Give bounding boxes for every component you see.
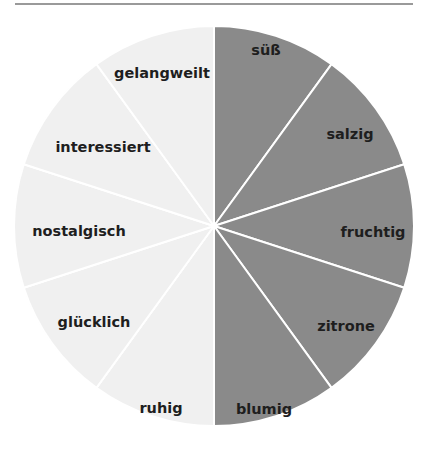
slice-label: salzig — [326, 126, 373, 142]
slice-label: ruhig — [139, 400, 182, 416]
slice-label: zitrone — [317, 318, 375, 334]
slice-label: fruchtig — [341, 224, 406, 240]
slice-label: gelangweilt — [114, 65, 210, 81]
pie-chart: süß salzig fruchtig zitrone blumig ruhig… — [0, 0, 426, 449]
slice-label: glücklich — [58, 314, 131, 330]
slice-label: süß — [251, 42, 280, 58]
slice-label: interessiert — [55, 139, 150, 155]
slice-label: blumig — [236, 401, 292, 417]
slice-label: nostalgisch — [32, 223, 126, 239]
